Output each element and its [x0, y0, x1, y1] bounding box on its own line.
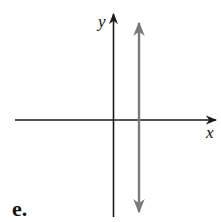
x-axis-label: x: [205, 123, 214, 142]
coordinate-plane: y x e.: [0, 0, 221, 222]
y-axis-label: y: [96, 12, 106, 31]
part-label: e.: [12, 196, 27, 221]
